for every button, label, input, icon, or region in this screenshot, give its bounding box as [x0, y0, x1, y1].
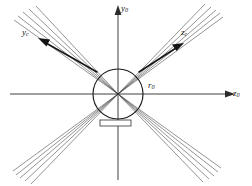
ray-bundle-lower-right	[118, 94, 221, 182]
label-z-zero-sub: 0	[237, 91, 240, 98]
vector-zc	[139, 43, 184, 72]
ray-bundle-upper-right	[118, 4, 223, 94]
diagram-svg	[0, 0, 252, 186]
label-r-zero: r0	[148, 81, 155, 91]
label-y-crystal: yc	[22, 28, 29, 38]
label-y-zero: y0	[121, 4, 128, 14]
label-y-zero-sub: 0	[125, 6, 128, 13]
label-z-crystal: zc	[181, 28, 187, 38]
ray-bundle-upper-left	[14, 6, 118, 94]
ray-bundle-lower-left	[13, 94, 118, 184]
vector-yc	[38, 38, 97, 72]
figure-canvas: y0 z0 r0 yc zc	[0, 0, 252, 186]
label-r-zero-sub: 0	[152, 83, 155, 90]
label-z-crystal-sub: c	[185, 30, 188, 37]
label-z-zero: z0	[233, 89, 240, 99]
label-y-crystal-sub: c	[26, 30, 29, 37]
plate-rectangle	[100, 120, 131, 126]
axis-horizontal-z0	[10, 91, 235, 98]
